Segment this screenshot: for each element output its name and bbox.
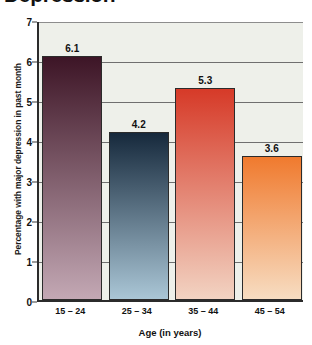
bar: 4.2 (109, 132, 169, 300)
bar-value-label: 3.6 (265, 143, 279, 154)
bar-value-label: 5.3 (198, 75, 212, 86)
plot-area: 6.14.25.33.6 (37, 22, 303, 302)
y-tick-label: 5 (18, 97, 32, 108)
x-tick-label: 35 – 44 (170, 306, 237, 316)
y-tick-label: 7 (18, 17, 32, 28)
chart-title: Depression (4, 0, 115, 7)
bar-value-label: 4.2 (132, 119, 146, 130)
bar-series: 6.14.25.33.6 (39, 22, 303, 300)
y-tick-label: 0 (18, 297, 32, 308)
y-tick-label: 4 (18, 137, 32, 148)
bar-value-label: 6.1 (65, 43, 79, 54)
x-axis-title: Age (in years) (37, 327, 303, 338)
y-axis-tick-labels: 01234567 (18, 22, 32, 302)
y-tick-label: 6 (18, 57, 32, 68)
bar: 6.1 (42, 56, 102, 300)
x-axis-tick-labels: 15 – 2425 – 3435 – 4445 – 54 (37, 306, 303, 322)
x-tick-label: 15 – 24 (37, 306, 104, 316)
bar: 3.6 (242, 156, 302, 300)
chart-title-strip: Depression (0, 0, 312, 12)
x-tick-label: 25 – 34 (104, 306, 171, 316)
x-tick-label: 45 – 54 (237, 306, 304, 316)
bar: 5.3 (175, 88, 235, 300)
y-tick-label: 1 (18, 257, 32, 268)
y-tick-label: 3 (18, 177, 32, 188)
y-tick-label: 2 (18, 217, 32, 228)
